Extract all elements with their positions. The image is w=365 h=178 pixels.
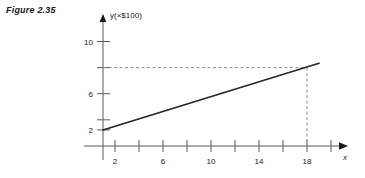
x-tick-label-2: 2 <box>113 157 118 166</box>
y-axis-arrow-icon <box>100 14 107 22</box>
x-axis-title: x <box>342 153 348 162</box>
y-tick-label-10: 10 <box>84 38 93 47</box>
x-tick-label-10: 10 <box>207 157 216 166</box>
x-tick-label-6: 6 <box>161 157 166 166</box>
figure-container: Figure 2.35 <box>0 0 365 178</box>
x-tick-label-18: 18 <box>303 157 312 166</box>
y-tick-label-6: 6 <box>89 90 94 99</box>
x-tick-label-14: 14 <box>255 157 264 166</box>
y-tick-label-2: 2 <box>89 126 94 135</box>
data-series-line <box>103 63 319 130</box>
x-axis-arrow-icon <box>339 142 348 149</box>
y-axis-title: y(×$100) <box>110 11 142 20</box>
chart-plot-area: 10 6 2 2 6 10 14 18 y(×$100) x <box>0 0 365 178</box>
